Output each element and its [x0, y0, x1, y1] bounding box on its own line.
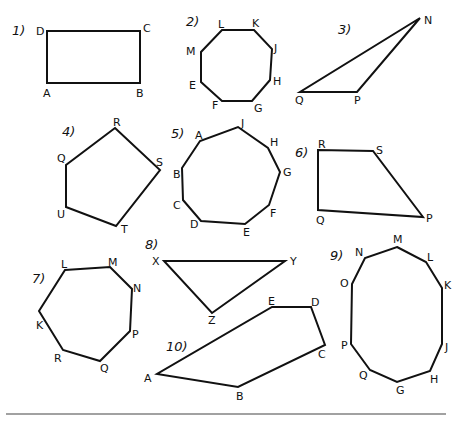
vertex-label: C	[143, 22, 151, 35]
vertex-label: F	[270, 207, 276, 220]
vertex-label: L	[218, 18, 225, 31]
figure-number-label: 10)	[166, 339, 188, 354]
figure-number-label: 8)	[145, 237, 158, 252]
vertex-label: A	[43, 87, 51, 100]
polygon-worksheet: 1)DCBA2)LKJHGFEM3)NPQ4)RSTUQ5)JHGFEDCBA6…	[0, 0, 468, 421]
vertex-label: L	[427, 251, 434, 264]
figure-5-nonagon: 5)JHGFEDCBA	[171, 117, 292, 239]
vertex-label: D	[190, 218, 198, 231]
vertex-label: Q	[316, 214, 325, 227]
figure-number-label: 5)	[171, 126, 184, 141]
vertex-label: P	[354, 94, 361, 107]
vertex-label: Q	[295, 94, 304, 107]
figure-7-heptagon: 7)LMNPQRK	[32, 256, 141, 375]
vertex-label: B	[173, 168, 181, 181]
figures-group: 1)DCBA2)LKJHGFEM3)NPQ4)RSTUQ5)JHGFEDCBA6…	[12, 14, 452, 403]
vertex-label: P	[132, 328, 139, 341]
vertex-label: D	[36, 25, 44, 38]
vertex-label: G	[254, 102, 263, 115]
vertex-label: Q	[100, 362, 109, 375]
vertex-label: P	[426, 212, 433, 225]
vertex-label: X	[152, 255, 160, 268]
vertex-label: J	[273, 42, 277, 55]
figure-9-decagon: 9)MLKJHGQPON	[330, 233, 452, 397]
figure-8-triangle: 8)XYZ	[145, 237, 297, 327]
vertex-label: Z	[208, 314, 216, 327]
vertex-label: T	[120, 223, 128, 236]
vertex-label: H	[273, 75, 281, 88]
vertex-label: Q	[57, 152, 66, 165]
figure-4-pentagon: 4)RSTUQ	[57, 116, 163, 236]
figure-1-rectangle: 1)DCBA	[12, 22, 151, 100]
rectangle-outline	[47, 31, 140, 83]
triangle-outline	[164, 261, 285, 313]
vertex-label: M	[108, 256, 118, 269]
decagon-outline	[351, 247, 442, 382]
pentagon-outline	[66, 128, 160, 226]
vertex-label: J	[240, 117, 244, 130]
vertex-label: R	[318, 138, 326, 151]
octagon-outline	[201, 30, 272, 101]
vertex-label: F	[212, 99, 218, 112]
vertex-label: K	[444, 279, 452, 292]
figure-6-trapezoid: 6)RSPQ	[295, 138, 433, 227]
figure-number-label: 2)	[186, 14, 199, 29]
vertex-label: N	[355, 246, 363, 259]
vertex-label: D	[311, 296, 319, 309]
vertex-label: N	[424, 14, 432, 27]
vertex-label: R	[54, 352, 62, 365]
vertex-label: H	[430, 373, 438, 386]
figure-number-label: 9)	[330, 248, 343, 263]
vertex-label: C	[318, 348, 326, 361]
vertex-label: Y	[289, 255, 297, 268]
vertex-label: S	[156, 156, 163, 169]
vertex-label: E	[189, 79, 196, 92]
figure-3-triangle: 3)NPQ	[295, 14, 432, 107]
vertex-label: R	[113, 116, 121, 129]
figure-number-label: 4)	[62, 124, 75, 139]
vertex-label: J	[444, 341, 448, 354]
vertex-label: A	[195, 129, 203, 142]
figure-10-pentagon: 10)EDCBA	[144, 295, 326, 403]
trapezoid-outline	[318, 150, 423, 217]
figure-number-label: 6)	[295, 145, 308, 160]
vertex-label: G	[283, 166, 292, 179]
vertex-label: U	[57, 208, 65, 221]
vertex-label: E	[243, 226, 250, 239]
vertex-label: B	[236, 390, 244, 403]
vertex-label: G	[396, 384, 405, 397]
figure-number-label: 3)	[338, 22, 351, 37]
vertex-label: K	[36, 319, 44, 332]
vertex-label: C	[173, 199, 181, 212]
vertex-label: M	[393, 233, 403, 246]
vertex-label: H	[270, 136, 278, 149]
vertex-label: O	[340, 277, 349, 290]
vertex-label: M	[186, 45, 196, 58]
figure-number-label: 7)	[32, 271, 45, 286]
figure-2-octagon: 2)LKJHGFEM	[186, 14, 281, 115]
vertex-label: N	[133, 282, 141, 295]
vertex-label: Q	[359, 369, 368, 382]
triangle-outline	[300, 18, 420, 92]
vertex-label: B	[136, 87, 144, 100]
vertex-label: L	[61, 258, 68, 271]
vertex-label: A	[144, 372, 152, 385]
vertex-label: E	[268, 295, 275, 308]
vertex-label: P	[341, 339, 348, 352]
figure-number-label: 1)	[12, 23, 25, 38]
vertex-label: K	[252, 17, 260, 30]
vertex-label: S	[376, 144, 383, 157]
heptagon-outline	[39, 267, 132, 361]
